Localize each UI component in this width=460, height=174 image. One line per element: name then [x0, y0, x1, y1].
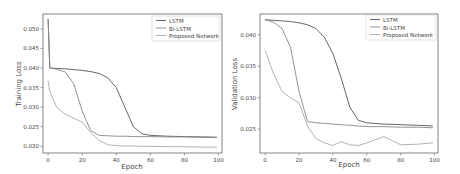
training-loss-plot: 0.0200.0250.0300.0350.0400.0450.050 0204…: [0, 0, 230, 174]
y-tick-label: 0.030: [240, 95, 256, 101]
y-tick-label: 0.040: [23, 65, 39, 71]
x-tick-label: 100: [213, 157, 224, 163]
y-tick-label: 0.020: [23, 143, 39, 149]
legend-label-bilstm: Bi-LSTM: [383, 25, 405, 31]
legend-label-bilstm: Bi-LSTM: [169, 26, 191, 32]
y-tick-label: 0.040: [240, 32, 256, 38]
y-axis-ticks: 0.0200.0250.0300.0350.0400.0450.050: [23, 26, 43, 149]
y-tick-label: 0.045: [23, 45, 39, 51]
y-tick-label: 0.050: [23, 26, 39, 32]
legend-label-proposed: Proposed Network: [169, 33, 220, 40]
x-axis-label: Epoch: [338, 161, 359, 169]
y-tick-label: 0.035: [23, 85, 39, 91]
series-line-proposed-network: [265, 51, 433, 146]
y-axis-label: Validation Loss: [231, 58, 239, 110]
x-tick-label: 0: [46, 157, 50, 163]
y-axis-label: Training Loss: [15, 61, 23, 108]
training-loss-chart: 0.0200.0250.0300.0350.0400.0450.050 0204…: [0, 0, 230, 174]
x-axis-ticks: 020406080100: [46, 153, 224, 163]
x-tick-label: 20: [295, 157, 302, 163]
x-tick-label: 20: [79, 157, 86, 163]
x-tick-label: 60: [363, 157, 370, 163]
y-tick-label: 0.025: [240, 126, 256, 132]
x-tick-label: 40: [113, 157, 120, 163]
x-axis-label: Epoch: [121, 163, 142, 171]
validation-loss-chart: 0.0250.0300.0350.040 020406080100 Epoch …: [230, 0, 460, 174]
x-tick-label: 0: [263, 157, 267, 163]
y-tick-label: 0.035: [240, 63, 256, 69]
x-tick-label: 80: [397, 157, 404, 163]
legend-label-lstm: LSTM: [383, 17, 398, 23]
y-tick-label: 0.025: [23, 124, 39, 130]
legend-label-proposed: Proposed Network: [383, 32, 434, 39]
validation-loss-plot: 0.0250.0300.0350.040 020406080100 Epoch …: [230, 0, 460, 174]
legend-label-lstm: LSTM: [169, 18, 184, 24]
x-tick-label: 100: [429, 157, 440, 163]
y-axis-ticks: 0.0250.0300.0350.040: [240, 32, 260, 132]
x-tick-label: 40: [329, 157, 336, 163]
x-tick-label: 80: [181, 157, 188, 163]
legend: LSTM Bi-LSTM Proposed Network: [152, 16, 220, 41]
y-tick-label: 0.030: [23, 104, 39, 110]
x-tick-label: 60: [147, 157, 154, 163]
legend: LSTM Bi-LSTM Proposed Network: [366, 15, 436, 40]
